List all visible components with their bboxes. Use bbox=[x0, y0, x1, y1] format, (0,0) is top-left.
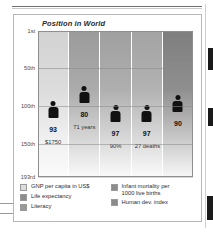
gridline bbox=[38, 31, 193, 32]
page-top-rule-secondary bbox=[12, 8, 202, 9]
legend-swatch-icon bbox=[20, 204, 27, 211]
legend-item[interactable]: Life expectancy bbox=[20, 193, 105, 201]
page-left-rule-secondary bbox=[0, 213, 13, 214]
chart-figure-card: Position in World 93 $1750 80 bbox=[13, 14, 202, 222]
legend-swatch-icon bbox=[20, 184, 27, 191]
chart-column[interactable]: 93 $1750 bbox=[38, 31, 69, 177]
chart-columns: 93 $1750 80 71 years 97 bbox=[38, 31, 193, 177]
column-value-label: 97 bbox=[112, 130, 120, 137]
y-axis-tick-label: 50th bbox=[24, 65, 35, 71]
chart-title: Position in World bbox=[42, 19, 105, 28]
page-left-rule bbox=[0, 203, 13, 204]
person-figure-icon bbox=[110, 105, 121, 122]
legend-swatch-icon bbox=[111, 199, 118, 206]
page-root: Position in World 93 $1750 80 bbox=[0, 0, 213, 234]
person-head bbox=[82, 86, 87, 91]
legend-item[interactable]: Infant mortality per 1000 live births bbox=[111, 183, 196, 196]
person-figure-icon bbox=[172, 95, 183, 112]
column-value-label: 97 bbox=[143, 130, 151, 137]
plot-area: 93 $1750 80 71 years 97 bbox=[38, 31, 193, 177]
legend-column-left: GNP per capita in US$ Life expectancy Li… bbox=[20, 183, 105, 219]
y-axis-tick-label: 193rd bbox=[21, 174, 35, 180]
legend-label: Infant mortality per 1000 live births bbox=[122, 183, 170, 196]
legend-column-right: Infant mortality per 1000 live births Hu… bbox=[105, 183, 196, 219]
column-value-label: 90 bbox=[174, 120, 182, 127]
legend-item[interactable]: GNP per capita in US$ bbox=[20, 183, 105, 191]
gridline bbox=[38, 106, 193, 107]
person-body bbox=[48, 107, 58, 118]
legend-label: Human dev. index bbox=[122, 199, 168, 206]
gridline bbox=[38, 177, 193, 178]
person-head bbox=[175, 95, 180, 100]
person-body bbox=[142, 111, 152, 122]
page-right-rail bbox=[205, 4, 206, 228]
gridline bbox=[38, 68, 193, 69]
legend-item[interactable]: Literacy bbox=[20, 203, 105, 211]
column-sublabel: 71 years bbox=[71, 124, 97, 131]
chart-column[interactable]: 97 90% bbox=[100, 31, 131, 177]
column-value-label: 80 bbox=[80, 111, 88, 118]
legend-label: GNP per capita in US$ bbox=[31, 183, 90, 190]
chart-legend: GNP per capita in US$ Life expectancy Li… bbox=[20, 183, 195, 219]
person-figure-icon bbox=[141, 105, 152, 122]
legend-swatch-icon bbox=[20, 194, 27, 201]
y-axis-tick-label: 100th bbox=[21, 103, 35, 109]
y-axis-tick-label: 150th bbox=[21, 141, 35, 147]
legend-item[interactable]: Human dev. index bbox=[111, 199, 196, 207]
page-edge-mark bbox=[208, 108, 213, 126]
chart-column[interactable]: 90 bbox=[163, 31, 193, 177]
legend-swatch-icon bbox=[111, 184, 118, 191]
person-body bbox=[111, 111, 121, 122]
legend-label: Literacy bbox=[31, 203, 51, 210]
person-figure-icon bbox=[48, 101, 59, 118]
page-top-rule bbox=[12, 6, 202, 7]
chart-column[interactable]: 97 27 deaths bbox=[132, 31, 163, 177]
person-body bbox=[79, 92, 89, 103]
legend-label: Life expectancy bbox=[31, 193, 71, 200]
chart-column[interactable]: 80 71 years bbox=[69, 31, 100, 177]
page-edge-mark bbox=[207, 196, 213, 220]
column-value-label: 93 bbox=[49, 126, 57, 133]
gridline bbox=[38, 144, 193, 145]
y-axis-tick-label: 1st bbox=[28, 28, 35, 34]
person-figure-icon bbox=[79, 86, 90, 103]
page-edge-mark bbox=[208, 48, 213, 70]
